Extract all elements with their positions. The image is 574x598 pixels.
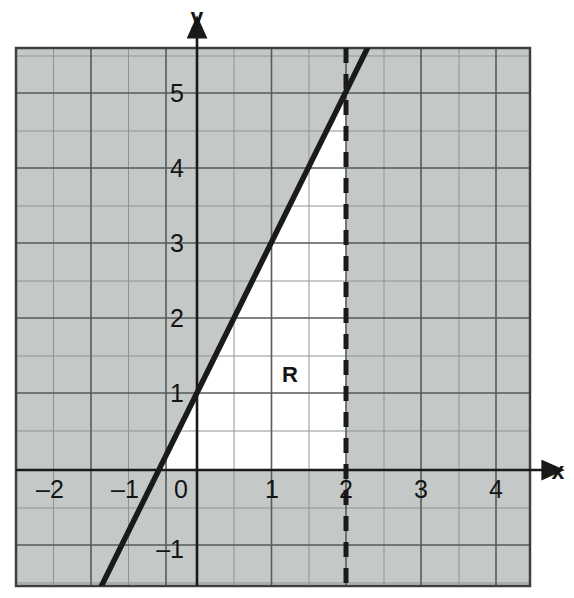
x-tick-label-0: 0 [174,475,188,503]
x-tick-label--2: –2 [36,475,64,503]
x-tick-label-1: 1 [265,475,279,503]
x-tick-label-4: 4 [489,475,503,503]
x-tick-label-3: 3 [414,475,428,503]
y-tick-label-5: 5 [170,79,184,107]
y-axis-label: y [191,4,204,30]
x-tick-label-2: 2 [339,475,353,503]
y-tick-label-1: 1 [170,379,184,407]
region-label-r: R [282,362,298,387]
x-axis-label: x [552,458,565,484]
y-tick-label--1: –1 [156,535,184,563]
y-tick-label-3: 3 [170,229,184,257]
y-tick-label-2: 2 [170,304,184,332]
coordinate-plane-svg: –2 –1 0 1 2 3 4 –1 1 2 3 4 5 y x R [0,0,574,598]
graph-figure: –2 –1 0 1 2 3 4 –1 1 2 3 4 5 y x R [0,0,574,598]
x-tick-label--1: –1 [111,475,139,503]
y-tick-label-4: 4 [170,154,184,182]
